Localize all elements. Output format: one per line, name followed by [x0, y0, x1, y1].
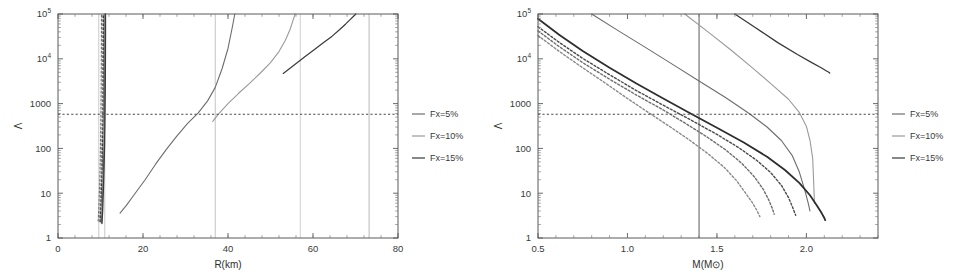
legend-label-1: Fx=10%	[910, 131, 943, 141]
data-curve-0-1	[213, 14, 295, 121]
data-curve-1-6	[538, 36, 760, 217]
x-tick-label-1: 1.0	[621, 243, 634, 254]
x-tick-label-0: 0.5	[531, 243, 544, 254]
legend-label-0: Fx=5%	[910, 109, 938, 119]
y-axis-title: Λ	[493, 122, 504, 129]
x-axis-title: R(km)	[214, 259, 241, 270]
x-tick-label-2: 40	[223, 243, 234, 254]
legend-label-2: Fx=15%	[430, 153, 463, 163]
data-curve-1-0	[592, 14, 810, 211]
figure-container: 0204060801101001000104105R(km)ΛFx=5%Fx=1…	[0, 0, 960, 273]
y-tick-label-0: 1	[526, 232, 531, 243]
y-tick-label-1: 10	[520, 188, 531, 199]
legend-label-2: Fx=15%	[910, 153, 943, 163]
y-tick-label-5: 105	[37, 7, 52, 19]
y-tick-label-0: 1	[46, 232, 51, 243]
x-tick-label-3: 60	[308, 243, 319, 254]
y-axis-title: Λ	[13, 122, 24, 129]
y-tick-label-5: 105	[517, 7, 532, 19]
plot-left-svg: 0204060801101001000104105R(km)ΛFx=5%Fx=1…	[0, 0, 480, 273]
data-curve-0-0	[120, 14, 235, 213]
x-tick-label-0: 0	[55, 243, 60, 254]
y-tick-label-2: 100	[515, 143, 531, 154]
x-tick-label-4: 80	[393, 243, 404, 254]
plot-frame	[538, 14, 878, 238]
data-curve-0-2	[283, 14, 356, 73]
y-tick-label-4: 104	[37, 52, 52, 64]
plot-right-svg: 0.51.01.52.01101001000104105M(M⊙)ΛFx=5%F…	[480, 0, 960, 273]
y-tick-label-2: 100	[35, 143, 51, 154]
legend-label-0: Fx=5%	[430, 109, 458, 119]
y-tick-label-3: 1000	[30, 98, 51, 109]
legend-label-1: Fx=10%	[430, 131, 463, 141]
data-curve-1-5	[538, 31, 774, 214]
x-axis-title: M(M⊙)	[692, 259, 723, 270]
y-tick-label-1: 10	[40, 188, 51, 199]
data-curve-1-2	[735, 14, 830, 73]
data-curve-1-3	[538, 19, 825, 220]
y-tick-label-3: 1000	[510, 98, 531, 109]
x-tick-label-3: 2.0	[800, 243, 813, 254]
data-curve-1-4	[538, 27, 796, 216]
panel-left-radius: 0204060801101001000104105R(km)ΛFx=5%Fx=1…	[0, 0, 480, 273]
x-tick-label-2: 1.5	[710, 243, 723, 254]
data-curve-1-1	[685, 14, 815, 203]
panel-right-mass: 0.51.01.52.01101001000104105M(M⊙)ΛFx=5%F…	[480, 0, 960, 273]
x-tick-label-1: 20	[138, 243, 149, 254]
y-tick-label-4: 104	[517, 52, 532, 64]
